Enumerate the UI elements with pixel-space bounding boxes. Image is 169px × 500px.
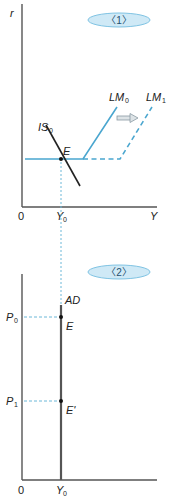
panel-2-badge: 〈2〉	[88, 265, 150, 279]
panel-1-islm: 〈1〉 r Y 0 Y 0 IS 0 LM 0	[10, 4, 166, 223]
lm1-curve	[83, 107, 152, 159]
panel-2-origin-label: 0	[18, 484, 24, 496]
svg-text:IS: IS	[38, 121, 49, 133]
is0-label: IS 0	[38, 121, 53, 134]
panel-2-badge-text: 〈2〉	[106, 267, 132, 278]
lm1-label: LM 1	[146, 91, 166, 104]
svg-text:0: 0	[63, 216, 67, 223]
panel-1-y-axis-label: r	[10, 7, 15, 19]
panel-1-badge-text: 〈1〉	[106, 15, 132, 26]
svg-text:0: 0	[49, 127, 53, 134]
ad-label: AD	[64, 294, 80, 306]
panel-1-equilibrium-label: E	[63, 145, 71, 157]
svg-text:0: 0	[125, 97, 129, 104]
svg-text:0: 0	[63, 490, 67, 497]
panel-2-ad: 〈2〉 AD E E' P 0 P 1 0 Y 0	[6, 265, 157, 497]
svg-text:LM: LM	[146, 91, 162, 103]
panel-2-e-label: E	[66, 320, 74, 332]
svg-text:P: P	[6, 311, 14, 323]
panel-1-equilibrium-point	[59, 157, 63, 161]
p1-tick-label: P 1	[6, 395, 18, 408]
svg-text:LM: LM	[109, 91, 125, 103]
shift-arrow-icon	[117, 114, 138, 123]
svg-text:1: 1	[14, 401, 18, 408]
svg-text:P: P	[6, 395, 14, 407]
panel-1-origin-label: 0	[18, 210, 24, 222]
p0-tick-label: P 0	[6, 311, 18, 324]
panel-1-x-axis-label: Y	[150, 210, 158, 222]
panel-2-e-prime-point	[59, 399, 63, 403]
panel-1-badge: 〈1〉	[88, 13, 150, 27]
diagram-canvas: 〈1〉 r Y 0 Y 0 IS 0 LM 0	[0, 0, 169, 500]
lm0-curve	[25, 107, 117, 159]
panel-2-y0-tick-label: Y 0	[56, 484, 67, 497]
svg-text:0: 0	[14, 317, 18, 324]
panel-2-e-point	[59, 315, 63, 319]
panel-2-e-prime-label: E'	[66, 404, 76, 416]
lm0-label: LM 0	[109, 91, 129, 104]
svg-text:1: 1	[162, 97, 166, 104]
